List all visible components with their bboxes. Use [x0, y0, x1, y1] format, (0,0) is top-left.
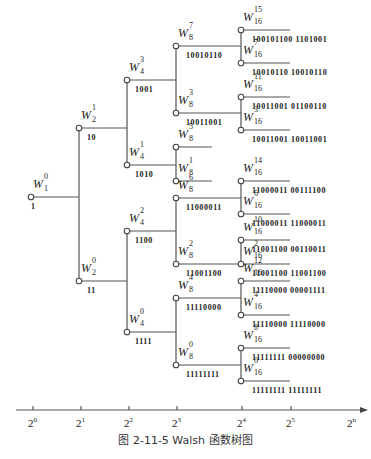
node-label-W16_14: W1416 [243, 161, 253, 176]
code-W16_12: 11110000 00001111 [252, 286, 326, 295]
axis-tick-label: 2n [347, 417, 356, 429]
node-W4_1 [124, 162, 130, 168]
code-W16_0: 11111111 11111111 [252, 386, 322, 395]
node-W16_12 [238, 278, 244, 284]
node-label-W16_8: W816 [243, 328, 253, 343]
node-label-W16_11: W1116 [243, 77, 253, 92]
node-label-W8_7: W78 [178, 26, 188, 41]
node-W4_3 [124, 77, 130, 83]
node-label-W16_7: W716 [243, 43, 253, 58]
node-label-W16_3: W316 [243, 110, 253, 125]
code-W16_14: 11000011 00111100 [252, 186, 326, 195]
code-W16_11: 10011001 01100110 [252, 102, 327, 111]
node-W16_14 [238, 178, 244, 184]
node-W8_7 [173, 43, 179, 49]
code-W16_3: 10011001 10011001 [252, 135, 327, 144]
node-label-W2_0: W02 [81, 261, 91, 276]
node-W2_1 [76, 125, 82, 131]
axis-tick-label: 24 [237, 417, 246, 429]
node-W16_6 [238, 211, 244, 217]
code-W8_0: 11111111 [186, 370, 220, 379]
node-label-W4_3: W34 [129, 60, 139, 75]
node-label-W1_0: W01 [33, 177, 43, 192]
axis-tick-label: 25 [286, 417, 295, 429]
axis-arrow-icon [360, 407, 368, 413]
code-W1_0: 1 [31, 202, 36, 211]
node-label-W16_15: W1516 [243, 10, 253, 25]
code-W8_6: 11000011 [186, 203, 222, 212]
code-W16_4: 11110000 11110000 [252, 320, 326, 329]
node-label-W8_4: W48 [178, 278, 188, 293]
node-W8_6 [173, 195, 179, 201]
code-W4_1: 1010 [135, 170, 153, 179]
node-W4_2 [124, 228, 130, 234]
node-W16_7 [238, 60, 244, 66]
code-W16_8: 11111111 00000000 [252, 353, 325, 362]
node-label-W16_10: W1016 [243, 220, 253, 235]
code-W16_7: 10010110 10010110 [252, 68, 327, 77]
node-W16_8 [238, 345, 244, 351]
code-W16_6: 11000011 11000011 [252, 219, 326, 228]
node-label-W4_2: W24 [129, 211, 139, 226]
axis-tick-label: 20 [28, 417, 37, 429]
node-label-W16_2: W216 [243, 244, 253, 259]
node-label-W16_6: W616 [243, 194, 253, 209]
node-label-W8_3: W38 [178, 93, 188, 108]
node-label-W4_0: W04 [129, 312, 139, 327]
node-label-W16_12: W1216 [243, 261, 253, 276]
code-W4_3: 1001 [135, 85, 153, 94]
code-W16_15: 100101100 1101001 [252, 35, 327, 44]
figure-caption: 图 2-11-5 Walsh 函数树图 [0, 431, 371, 447]
node-W16_4 [238, 312, 244, 318]
node-label-W2_1: W12 [81, 108, 91, 123]
node-W16_10 [238, 237, 244, 243]
code-W8_4: 11110000 [186, 303, 221, 312]
node-W8_3 [173, 110, 179, 116]
node-label-W8_6: W68 [178, 178, 188, 193]
node-label-W16_0: W016 [243, 361, 253, 376]
node-label-W8_1: W18 [178, 161, 188, 176]
node-label-W4_1: W14 [129, 145, 139, 160]
node-W8_0 [173, 362, 179, 368]
code-W16_10: 11001100 00110011 [252, 245, 326, 254]
node-W8_5 [173, 144, 179, 150]
code-W4_0: 1111 [135, 337, 152, 346]
node-W16_15 [238, 27, 244, 33]
node-W8_2 [173, 261, 179, 267]
node-W1_0 [28, 194, 34, 200]
axis-tick-label: 21 [76, 417, 85, 429]
node-W16_3 [238, 127, 244, 133]
node-label-W8_5: W58 [178, 127, 188, 142]
code-W4_2: 1100 [135, 236, 153, 245]
axis-tick-label: 23 [172, 417, 181, 429]
node-W2_0 [76, 278, 82, 284]
code-W8_7: 10010110 [186, 51, 222, 60]
node-W16_11 [238, 94, 244, 100]
node-label-W8_2: W28 [178, 244, 188, 259]
node-W4_0 [124, 329, 130, 335]
code-W16_2: 11001100 11001100 [252, 269, 326, 278]
node-W16_0 [238, 378, 244, 384]
node-label-W8_0: W08 [178, 345, 188, 360]
code-W2_1: 10 [87, 133, 96, 142]
code-W2_0: 11 [87, 286, 96, 295]
node-W8_4 [173, 295, 179, 301]
node-label-W16_4: W416 [243, 295, 253, 310]
axis-tick-label: 22 [124, 417, 133, 429]
